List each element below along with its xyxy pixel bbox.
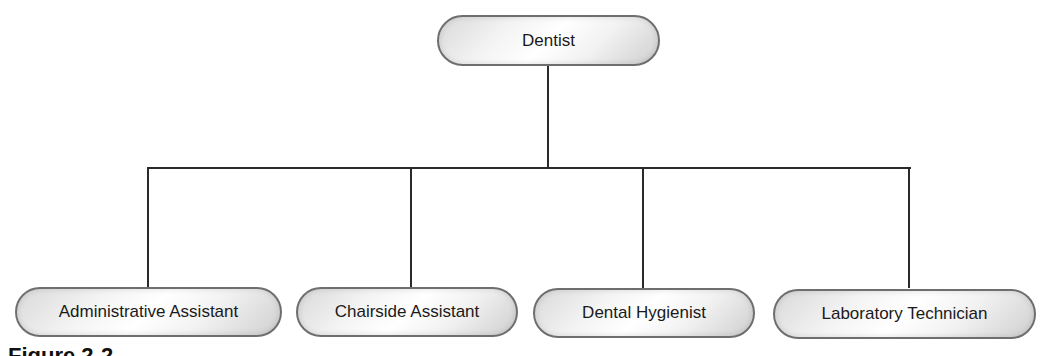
node-label: Chairside Assistant — [335, 302, 480, 322]
node-laboratory-technician: Laboratory Technician — [773, 289, 1036, 339]
horizontal-bus-line — [147, 167, 911, 169]
node-label: Dental Hygienist — [582, 303, 706, 323]
node-label: Laboratory Technician — [821, 304, 987, 324]
drop-line-administrative-assistant — [147, 167, 149, 288]
root-trunk-line — [547, 66, 549, 169]
node-label: Dentist — [522, 31, 575, 51]
figure-caption: Figure 2-2 — [8, 343, 113, 356]
node-administrative-assistant: Administrative Assistant — [15, 287, 282, 337]
drop-line-dental-hygienist — [642, 167, 644, 288]
node-dentist: Dentist — [437, 15, 660, 66]
node-label: Administrative Assistant — [59, 302, 239, 322]
node-dental-hygienist: Dental Hygienist — [533, 288, 755, 338]
node-chairside-assistant: Chairside Assistant — [296, 287, 518, 337]
drop-line-chairside-assistant — [410, 167, 412, 288]
drop-line-laboratory-technician — [908, 167, 910, 288]
